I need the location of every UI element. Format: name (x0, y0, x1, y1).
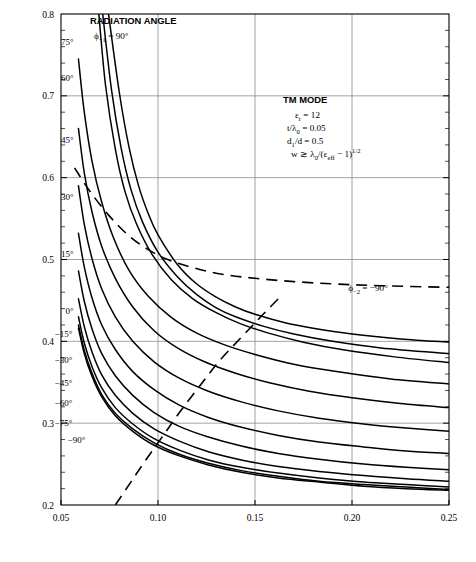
param-t-over-lambda: t/λ0 = 0.05 (287, 123, 326, 135)
curve-label-9: −60° (55, 398, 73, 408)
x-tick-label: 0.15 (247, 513, 264, 523)
y-tick-label: 0.5 (42, 255, 54, 265)
curve-label-7: −30° (55, 355, 73, 365)
param-epsilon-r: εr = 12 (295, 110, 320, 122)
curve-label-10: −75° (55, 418, 73, 428)
x-tick-label: 0.20 (344, 513, 361, 523)
y-tick-label: 0.8 (42, 10, 54, 20)
chart-background (0, 0, 476, 562)
param-w-condition: w ≳ λ0/(εeff − 1)1/2 (291, 147, 361, 160)
y-tick-label: 0.6 (42, 173, 54, 183)
y-tick-label: 0.2 (42, 501, 54, 511)
tm-mode-title: TM MODE (283, 94, 327, 105)
corrugation-period-chart: 75°60°45°30°15°0°−15°−30°−45°−60°−75°−90… (0, 0, 476, 562)
x-tick-label: 0.10 (150, 513, 167, 523)
radiation-angle-header: RADIATION ANGLE (90, 15, 176, 26)
curve-label-3: 30° (61, 192, 74, 202)
curve-label-4: 15° (61, 249, 74, 259)
curve-label-1: 60° (61, 73, 74, 83)
curve-label-6: −15° (55, 329, 73, 339)
curve-label-0: 75° (61, 37, 74, 47)
y-tick-label: 0.4 (42, 337, 54, 347)
x-tick-label: 0.25 (441, 513, 458, 523)
curve-label-2: 45° (61, 135, 74, 145)
y-tick-label: 0.3 (42, 419, 54, 429)
curve-label-5: 0° (66, 306, 75, 316)
figure-container: 75°60°45°30°15°0°−15°−30°−45°−60°−75°−90… (0, 0, 476, 562)
y-tick-label: 0.7 (42, 91, 54, 101)
curve-label-8: −45° (55, 378, 73, 388)
x-tick-label: 0.05 (53, 513, 70, 523)
curve-label-11: −90° (68, 435, 86, 445)
